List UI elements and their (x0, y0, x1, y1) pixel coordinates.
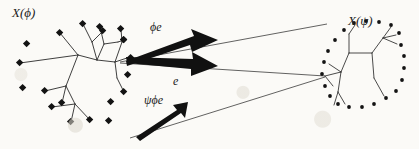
left-tree-group (20, 24, 127, 122)
right-tree-group (325, 25, 397, 105)
cone-line-bottom (130, 77, 325, 138)
label-x-psi: X(ψ) (348, 14, 373, 27)
label-e: e (173, 75, 178, 87)
cone-thin-lines (120, 24, 327, 138)
label-psi-phi-e: ψϕe (144, 94, 163, 106)
thick-arrow-psi-phi-e (136, 102, 188, 141)
label-x-phi: X(ϕ) (12, 6, 35, 19)
label-phi-e: ϕe (150, 21, 162, 33)
right-tree-leaf-markers (320, 19, 406, 109)
thick-arrow-e (126, 52, 218, 76)
